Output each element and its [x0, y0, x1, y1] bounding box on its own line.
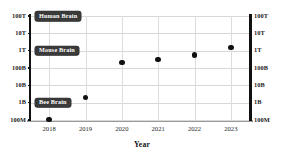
y-tick-label-left: 10B [15, 82, 26, 88]
x-axis-title: Year [0, 140, 284, 149]
data-point [46, 117, 51, 122]
gridline-horizontal [31, 85, 249, 86]
chart-figure: 100T100T10T10T1T1T100B100B10B10B1B1B100M… [0, 0, 284, 157]
gridline-vertical [86, 16, 87, 120]
x-tick-label: 2022 [188, 126, 201, 133]
x-tick-label: 2023 [224, 126, 237, 133]
y-tick-label-left: 10T [15, 30, 26, 36]
y-tick-label-left: 100T [12, 13, 26, 19]
y-tick-mark-left [28, 33, 31, 34]
y-tick-label-left: 1B [18, 99, 26, 105]
y-tick-mark-left [28, 85, 31, 86]
y-tick-label-left: 100M [10, 117, 26, 123]
gridline-vertical [122, 16, 123, 120]
x-tick-label: 2021 [152, 126, 165, 133]
reference-badge: Human Brain [35, 11, 81, 21]
y-tick-label-right: 10B [254, 82, 265, 88]
y-tick-label-right: 1B [254, 99, 262, 105]
y-tick-mark-left [28, 119, 31, 120]
y-tick-mark-right [249, 119, 252, 120]
y-tick-label-left: 100B [12, 65, 26, 71]
data-point [119, 60, 124, 65]
gridline-horizontal [31, 33, 249, 34]
y-tick-mark-right [249, 50, 252, 51]
x-tick-label: 2018 [43, 126, 56, 133]
x-tick-label: 2019 [79, 126, 92, 133]
y-tick-mark-left [28, 50, 31, 51]
reference-badge: Bee Brain [35, 98, 71, 108]
data-point [155, 57, 160, 62]
gridline-vertical [158, 16, 159, 120]
y-tick-mark-left [28, 102, 31, 103]
y-tick-mark-right [249, 15, 252, 16]
plot-area: 100T100T10T10T1T1T100B100B10B10B1B1B100M… [31, 16, 249, 120]
y-tick-label-right: 100B [254, 65, 268, 71]
y-tick-label-left: 1T [18, 47, 26, 53]
data-point [83, 95, 88, 100]
y-tick-label-right: 100T [254, 13, 268, 19]
y-tick-mark-left [28, 15, 31, 16]
reference-badge: Mouse Brain [35, 46, 79, 56]
y-tick-mark-right [249, 33, 252, 34]
y-tick-label-right: 1T [254, 47, 262, 53]
gridline-vertical [195, 16, 196, 120]
gridline-horizontal [31, 68, 249, 69]
data-point [228, 45, 233, 50]
gridline-vertical [231, 16, 232, 120]
y-tick-mark-right [249, 67, 252, 68]
y-tick-label-right: 10T [254, 30, 265, 36]
y-tick-mark-right [249, 85, 252, 86]
gridline-horizontal [31, 120, 249, 121]
y-tick-label-right: 100M [254, 117, 270, 123]
y-tick-mark-left [28, 67, 31, 68]
data-point [192, 52, 197, 57]
y-tick-mark-right [249, 102, 252, 103]
x-tick-label: 2020 [115, 126, 128, 133]
